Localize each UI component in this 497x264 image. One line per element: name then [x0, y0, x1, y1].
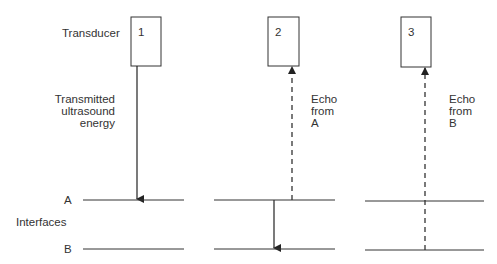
interfaces-label: Interfaces — [16, 216, 67, 228]
transmitted-label-line-2: ultrasound — [40, 105, 115, 117]
transducer-box-3 — [401, 17, 431, 67]
echo-b-line-2: from — [449, 105, 475, 117]
transducer-box-1 — [131, 17, 161, 66]
echo-from-a-label: Echo from A — [311, 93, 337, 129]
transducer-box-2 — [268, 17, 299, 66]
echo-b-line-1: Echo — [449, 93, 475, 105]
panel-3 — [365, 17, 484, 250]
transducer-number-2: 2 — [275, 26, 281, 38]
transducer-number-3: 3 — [408, 26, 414, 38]
echo-a-line-1: Echo — [311, 93, 337, 105]
panel-1 — [83, 17, 184, 249]
transducer-number-1: 1 — [138, 26, 144, 38]
transmitted-label-line-3: energy — [40, 117, 115, 129]
echo-b-line-3: B — [449, 117, 475, 129]
transmitted-label-line-1: Transmitted — [40, 93, 115, 105]
echo-a-line-3: A — [311, 117, 337, 129]
interface-b-label: B — [64, 243, 72, 255]
transmitted-energy-label: Transmitted ultrasound energy — [40, 93, 115, 129]
panel-2 — [214, 17, 335, 249]
echo-from-b-label: Echo from B — [449, 93, 475, 129]
echo-a-line-2: from — [311, 105, 337, 117]
ultrasound-echo-diagram — [0, 0, 497, 264]
transducer-label: Transducer — [62, 27, 120, 39]
interface-a-label: A — [64, 194, 72, 206]
